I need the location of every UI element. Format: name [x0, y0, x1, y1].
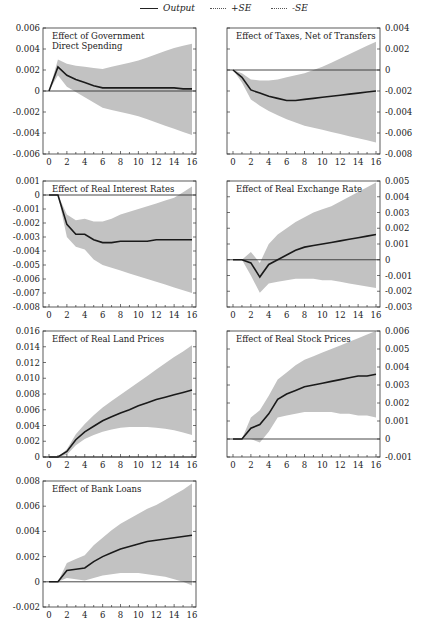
- x-tick-label: 0: [46, 157, 51, 167]
- x-tick-label: 8: [302, 157, 307, 167]
- x-tick-label: 4: [82, 610, 87, 620]
- y-tick-label: 0: [35, 86, 40, 96]
- chart-title: Effect of Taxes, Net of Transfers: [236, 31, 376, 41]
- y-tick-label: 0.004: [385, 362, 409, 372]
- x-tick-label: 14: [169, 310, 180, 320]
- x-tick-label: 12: [335, 460, 346, 470]
- x-tick-label: 0: [46, 610, 51, 620]
- y-tick-label: 0.002: [385, 398, 409, 408]
- y-tick-label: -0.007: [13, 288, 40, 298]
- y-tick-label: 0.002: [16, 65, 40, 75]
- chart-government-spending: 02468101214160.0060.0040.0020-0.002-0.00…: [13, 23, 198, 167]
- x-tick-label: 0: [46, 310, 51, 320]
- x-tick-label: 10: [133, 460, 144, 470]
- y-tick-label: -0.006: [13, 149, 40, 159]
- x-tick-label: 2: [248, 310, 253, 320]
- x-tick-label: 14: [169, 610, 180, 620]
- y-tick-label: 0.001: [385, 239, 409, 249]
- y-tick-label: 0.005: [385, 176, 409, 186]
- x-tick-label: 8: [118, 610, 123, 620]
- chart-bank-loans: 02468101214160.0080.0060.0040.0020-0.002…: [13, 476, 198, 620]
- se-band: [49, 44, 192, 135]
- x-tick-label: 6: [284, 157, 289, 167]
- y-tick-label: -0.003: [13, 232, 40, 242]
- chart-title: Direct Spending: [52, 41, 123, 51]
- y-tick-label: -0.001: [385, 271, 412, 281]
- x-tick-label: 4: [266, 157, 271, 167]
- y-tick-label: 0.004: [16, 421, 40, 431]
- x-tick-label: 6: [284, 460, 289, 470]
- x-tick-label: 2: [248, 460, 253, 470]
- x-tick-label: 14: [169, 460, 180, 470]
- y-tick-label: 0: [35, 577, 40, 587]
- y-tick-label: 0: [35, 190, 40, 200]
- x-tick-label: 10: [133, 157, 144, 167]
- y-tick-label: 0.014: [16, 342, 40, 352]
- y-tick-label: 0.004: [385, 23, 409, 33]
- x-tick-label: 14: [353, 460, 364, 470]
- x-tick-label: 6: [284, 310, 289, 320]
- y-tick-label: -0.006: [385, 128, 412, 138]
- x-tick-label: 16: [187, 310, 198, 320]
- x-tick-label: 0: [46, 460, 51, 470]
- impulse-response-figure: 02468101214160.0060.0040.0020-0.002-0.00…: [0, 0, 426, 626]
- x-tick-label: 12: [151, 610, 162, 620]
- y-tick-label: 0.006: [16, 405, 40, 415]
- y-tick-label: 0.002: [385, 223, 409, 233]
- x-tick-label: 0: [230, 157, 235, 167]
- y-tick-label: 0.006: [385, 326, 409, 336]
- y-tick-label: 0.003: [385, 208, 409, 218]
- x-tick-label: 4: [266, 460, 271, 470]
- chart-taxes-net-transfers: 02468101214160.0040.0020-0.002-0.004-0.0…: [227, 23, 412, 167]
- x-tick-label: 16: [187, 157, 198, 167]
- y-tick-label: -0.002: [385, 286, 412, 296]
- y-tick-label: 0.016: [16, 326, 40, 336]
- y-tick-label: 0.012: [16, 358, 40, 368]
- y-tick-label: 0.001: [385, 416, 409, 426]
- y-tick-label: 0.004: [385, 192, 409, 202]
- y-tick-label: -0.008: [13, 302, 40, 312]
- chart-title: Effect of Real Exchange Rate: [236, 184, 362, 194]
- x-tick-label: 10: [133, 610, 144, 620]
- y-tick-label: 0: [35, 452, 40, 462]
- x-tick-label: 4: [82, 157, 87, 167]
- x-tick-label: 16: [371, 157, 382, 167]
- y-tick-label: -0.002: [13, 107, 40, 117]
- y-tick-label: -0.008: [385, 149, 412, 159]
- x-tick-label: 14: [353, 310, 364, 320]
- y-tick-label: 0.010: [16, 373, 40, 383]
- x-tick-label: 10: [317, 310, 328, 320]
- x-tick-label: 12: [151, 310, 162, 320]
- x-tick-label: 6: [100, 157, 105, 167]
- y-tick-label: 0: [385, 255, 390, 265]
- x-tick-label: 8: [302, 460, 307, 470]
- x-tick-label: 16: [371, 310, 382, 320]
- x-tick-label: 4: [82, 460, 87, 470]
- y-tick-label: 0.008: [16, 389, 40, 399]
- y-tick-label: 0.002: [16, 552, 40, 562]
- x-tick-label: 2: [64, 610, 69, 620]
- y-tick-label: 0.005: [385, 344, 409, 354]
- y-tick-label: 0.008: [16, 476, 40, 486]
- x-tick-label: 10: [133, 310, 144, 320]
- chart-title: Effect of Bank Loans: [52, 484, 141, 494]
- x-tick-label: 8: [118, 460, 123, 470]
- chart-real-land-prices: 02468101214160.0160.0140.0120.0100.0080.…: [16, 326, 198, 470]
- y-tick-label: -0.006: [13, 274, 40, 284]
- chart-title: Effect of Real Stock Prices: [236, 334, 351, 344]
- x-tick-label: 16: [371, 460, 382, 470]
- y-tick-label: -0.005: [13, 260, 40, 270]
- x-tick-label: 6: [100, 610, 105, 620]
- y-tick-label: -0.002: [13, 218, 40, 228]
- y-tick-label: 0.002: [385, 44, 409, 54]
- y-tick-label: 0.004: [16, 44, 40, 54]
- x-tick-label: 10: [317, 157, 328, 167]
- y-tick-label: 0: [385, 65, 390, 75]
- y-tick-label: 0.002: [16, 436, 40, 446]
- y-tick-label: -0.004: [385, 107, 412, 117]
- y-tick-label: -0.003: [385, 302, 412, 312]
- x-tick-label: 12: [335, 157, 346, 167]
- x-tick-label: 12: [151, 157, 162, 167]
- chart-real-stock-prices: 02468101214160.0060.0050.0040.0030.0020.…: [227, 326, 412, 470]
- y-tick-label: 0.004: [16, 526, 40, 536]
